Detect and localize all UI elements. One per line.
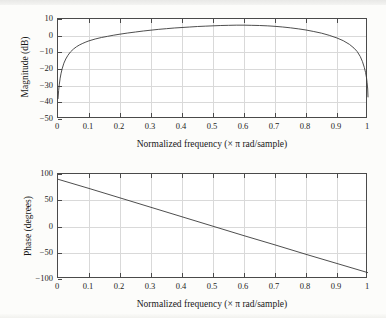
data-series-line [58,25,368,99]
x-axis-tick-label: 0 [55,281,59,291]
x-axis-tick-label: 1 [365,281,369,291]
x-axis-tick-label: 0.4 [176,281,187,291]
magnitude-panel: Magnitude (dB) Normalized frequency (× π… [0,0,386,155]
y-axis-tick-label: −40 [23,96,53,106]
magnitude-axes [57,18,367,118]
phase-xlabel: Normalized frequency (× π rad/sample) [57,299,367,309]
x-axis-tick-label: 1 [365,121,369,131]
figure-page: Magnitude (dB) Normalized frequency (× π… [0,0,386,318]
x-axis-tick-label: 0 [55,121,59,131]
x-axis-tick-label: 0.4 [176,121,187,131]
x-axis-tick-label: 0.1 [83,121,94,131]
y-axis-tick [58,279,62,280]
y-axis-tick-label: 50 [23,194,53,204]
x-axis-tick-label: 0.1 [83,281,94,291]
magnitude-xlabel: Normalized frequency (× π rad/sample) [57,139,367,149]
y-axis-tick-label: 0 [23,221,53,231]
phase-curve [58,174,368,279]
y-axis-tick-label: −50 [23,113,53,123]
phase-panel: Phase (degrees) Normalized frequency (× … [0,155,386,318]
y-axis-tick-label: −20 [23,63,53,73]
magnitude-curve [58,19,368,119]
data-series-line [58,179,368,272]
y-axis-tick-label: 10 [23,13,53,23]
x-axis-tick-label: 0.7 [269,121,280,131]
x-axis-tick-label: 0.6 [238,121,249,131]
phase-axes [57,173,367,278]
x-axis-tick-label: 0.2 [114,121,125,131]
y-axis-tick-label: −10 [23,46,53,56]
x-axis-tick-label: 0.3 [145,121,156,131]
x-axis-tick-label: 0.6 [238,281,249,291]
y-axis-tick-label: −30 [23,80,53,90]
x-axis-tick-label: 0.9 [331,281,342,291]
x-axis-tick-label: 0.8 [300,281,311,291]
y-axis-tick-label: −100 [23,273,53,283]
x-axis-tick-label: 0.5 [207,121,218,131]
x-axis-tick-label: 0.3 [145,281,156,291]
x-axis-tick-label: 0.8 [300,121,311,131]
x-axis-tick-label: 0.2 [114,281,125,291]
y-axis-tick-label: 0 [23,30,53,40]
y-axis-tick-label: −50 [23,247,53,257]
y-axis-tick-label: 100 [23,168,53,178]
x-axis-tick-label: 0.7 [269,281,280,291]
x-axis-tick-label: 0.9 [331,121,342,131]
y-axis-tick [58,119,62,120]
x-axis-tick-label: 0.5 [207,281,218,291]
